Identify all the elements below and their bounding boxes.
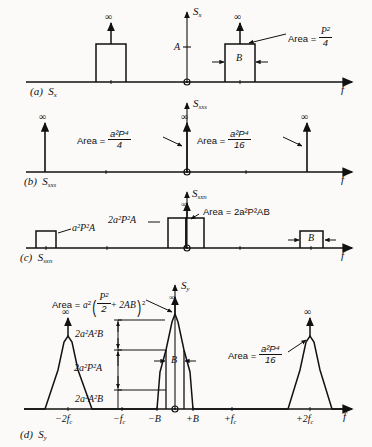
panel-d-xtick-plus-2fc: +2fc — [296, 414, 313, 425]
panel-b-center-infinity-icon: ∞ — [181, 111, 188, 122]
panel-a-right-infinity-icon: ∞ — [234, 11, 241, 22]
panel-d-area-annotation-main: Area = a2(P22+ 2AB)2 — [52, 292, 145, 316]
panel-d-segment-label-top: 2a²A²B — [75, 329, 103, 339]
panel-a-y-axis-label: Sx — [193, 6, 202, 19]
panel-a-caption: (a) Sx — [30, 86, 57, 99]
panel-a-left-infinity-icon: ∞ — [105, 11, 112, 22]
panel-c-caption: (c) Ssxn — [20, 252, 52, 265]
panel-c-right-block-width-label: B — [308, 233, 314, 243]
panel-d-segment-label-middle: 2a²P²A — [74, 363, 102, 373]
panel-c-area-annotation: Area = 2a²P²AB — [203, 207, 270, 217]
panel-d-width-label-B: B — [171, 355, 177, 365]
panel-b-right-infinity-icon: ∞ — [301, 111, 308, 122]
panel-d-caption: (d) Sy — [20, 429, 47, 442]
panel-d-xtick-minus-2fc: −2fc — [55, 414, 72, 425]
panel-d-x-axis-label: f — [343, 411, 346, 422]
panel-d-xtick-plus-fc: +fc — [224, 414, 236, 425]
panel-c-center-block-label: 2a²P²A — [108, 215, 136, 225]
panel-b-area-annotation-center: Area = a²P⁴ 4 — [77, 129, 131, 150]
panel-b-y-axis-label: Ssxs — [193, 98, 207, 111]
panel-c-y-axis-label: Ssxn — [192, 188, 207, 201]
figure-vector-layer — [0, 0, 372, 447]
panel-c-center-infinity-icon: ∞ — [181, 200, 187, 209]
panel-b-x-axis-label: f — [341, 174, 344, 185]
panel-d-area-annotation-right: Area = a²P⁴ 16 — [228, 344, 282, 365]
panel-b-caption: (b) Ssxs — [24, 176, 56, 189]
panel-b-left-infinity-icon: ∞ — [39, 111, 46, 122]
panel-a-width-label-B: B — [236, 53, 242, 63]
panel-d-center-infinity-icon: ∞ — [169, 293, 175, 302]
panel-d-xtick-minus-B: −B — [148, 414, 161, 424]
panel-b-area-annotation-right: Area = a²P⁴ 16 — [197, 129, 251, 150]
spectral-density-figure: Sx ∞ ∞ A B Area = P2 4 f (a) Sx Ssxs ∞ ∞… — [0, 0, 372, 447]
panel-c-x-axis-label: f — [341, 250, 344, 261]
panel-d-right-infinity-icon: ∞ — [304, 306, 311, 317]
panel-d-y-axis-label: Sy — [181, 280, 190, 293]
panel-d-segment-label-bottom: 2a²A²B — [75, 394, 103, 404]
panel-a-x-axis-label: f — [341, 84, 344, 95]
panel-c-left-block-label: a²P²A — [72, 223, 95, 233]
panel-a-area-annotation: Area = P2 4 — [288, 26, 332, 48]
panel-d-xtick-plus-B: +B — [186, 414, 199, 424]
panel-a-ytick-A: A — [174, 42, 180, 52]
panel-d-xtick-minus-fc: −fc — [113, 414, 125, 425]
